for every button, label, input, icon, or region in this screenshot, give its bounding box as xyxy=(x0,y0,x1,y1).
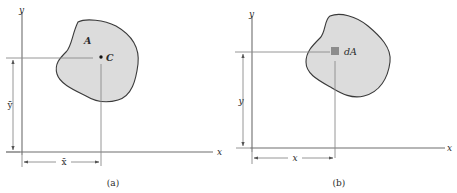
panel-a: y x A C ȳ x̄ (a) xyxy=(6,5,222,188)
x-bar-label: x̄ xyxy=(61,157,66,167)
figure-canvas: y x A C ȳ x̄ (a) y x dA y x (b) xyxy=(0,0,457,193)
x-axis-label-b: x xyxy=(447,143,452,153)
differential-area-element xyxy=(331,47,339,55)
centroid-label-c: C xyxy=(106,52,114,63)
caption-b: (b) xyxy=(333,178,346,188)
y-dimension-label: y xyxy=(237,96,244,106)
x-dimension-label: x xyxy=(292,153,297,163)
y-axis-label-a: y xyxy=(18,5,25,15)
x-axis-label-a: x xyxy=(217,147,222,157)
y-bar-label: ȳ xyxy=(6,100,13,110)
region-a-shape xyxy=(56,20,138,102)
y-axis-label-b: y xyxy=(248,9,255,19)
caption-a: (a) xyxy=(107,178,119,188)
centroid-point xyxy=(99,55,102,58)
element-label-da: dA xyxy=(344,46,357,57)
region-label-a: A xyxy=(83,35,91,46)
panel-b: y x dA y x (b) xyxy=(235,9,452,188)
